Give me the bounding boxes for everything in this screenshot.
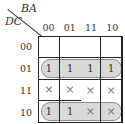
column-headers: 00 01 11 10	[38, 22, 123, 34]
kmap-cell: ×	[39, 80, 60, 101]
kmap-cell: 1	[81, 58, 102, 79]
row-axis-label: DC	[5, 16, 22, 27]
kmap-cell: 1	[39, 58, 60, 79]
row-header-10: 10	[0, 101, 32, 123]
col-header-01: 01	[59, 22, 80, 34]
kmap-cell	[101, 37, 122, 58]
kmap-cell: ×	[101, 80, 122, 101]
karnaugh-map: BA DC 00 01 11 10 00 01 11 10 1 1 1 1 × …	[0, 0, 125, 124]
col-header-10: 10	[102, 22, 123, 34]
col-header-11: 11	[81, 22, 102, 34]
kmap-cell	[39, 37, 60, 58]
kmap-cell: ×	[81, 80, 102, 101]
kmap-cell: ×	[60, 80, 81, 101]
kmap-cell	[81, 37, 102, 58]
kmap-cells: 1 1 1 1 × × × × 1 1 × ×	[39, 37, 122, 122]
kmap-cell: ×	[81, 101, 102, 122]
col-axis-label: BA	[21, 3, 37, 14]
row-header-11: 11	[0, 80, 32, 102]
kmap-cell: 1	[60, 101, 81, 122]
row-headers: 00 01 11 10	[0, 36, 32, 123]
kmap-grid: 1 1 1 1 × × × × 1 1 × ×	[38, 36, 123, 123]
row-header-01: 01	[0, 58, 32, 80]
row-header-00: 00	[0, 36, 32, 58]
kmap-cell: 1	[39, 101, 60, 122]
kmap-cell	[60, 37, 81, 58]
kmap-cell: ×	[101, 101, 122, 122]
kmap-cell: 1	[101, 58, 122, 79]
col-header-00: 00	[38, 22, 59, 34]
kmap-cell: 1	[60, 58, 81, 79]
